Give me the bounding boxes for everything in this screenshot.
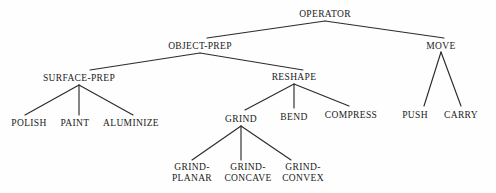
tree-node-compress[interactable]: COMPRESS bbox=[325, 110, 377, 120]
tree-edge-move-to-carry bbox=[441, 52, 461, 106]
tree-node-label: PAINT bbox=[61, 118, 90, 128]
tree-edge-reshape-to-grind bbox=[245, 84, 294, 110]
tree-node-polish[interactable]: POLISH bbox=[11, 118, 46, 128]
tree-node-label: ALUMINIZE bbox=[103, 118, 159, 128]
tree-node-label: OPERATOR bbox=[299, 9, 351, 19]
tree-node-label-second-line: CONCAVE bbox=[224, 172, 271, 183]
tree-node-object-prep[interactable]: OBJECT-PREP bbox=[168, 41, 232, 51]
tree-edge-operator-to-move bbox=[325, 21, 444, 38]
tree-edge-reshape-to-compress bbox=[294, 84, 349, 106]
tree-node-label: MOVE bbox=[426, 41, 455, 51]
tree-node-label: COMPRESS bbox=[325, 110, 377, 120]
tree-node-paint[interactable]: PAINT bbox=[61, 118, 90, 128]
tree-edge-grind-to-grind-planar bbox=[192, 126, 241, 160]
tree-edge-surface-prep-to-aluminize bbox=[79, 85, 133, 115]
tree-node-label: SURFACE-PREP bbox=[43, 73, 115, 83]
tree-node-label: GRIND- bbox=[224, 162, 271, 173]
tree-node-label-second-line: CONVEX bbox=[282, 172, 324, 183]
tree-node-grind[interactable]: GRIND bbox=[225, 114, 257, 124]
tree-edge-move-to-push bbox=[424, 52, 441, 106]
tree-node-operator[interactable]: OPERATOR bbox=[299, 9, 351, 19]
tree-node-move[interactable]: MOVE bbox=[426, 41, 455, 51]
tree-diagram: OPERATOROBJECT-PREPMOVESURFACE-PREPRESHA… bbox=[0, 0, 496, 193]
tree-node-aluminize[interactable]: ALUMINIZE bbox=[103, 118, 159, 128]
tree-node-grind-convex[interactable]: GRIND-CONVEX bbox=[282, 162, 324, 183]
tree-node-surface-prep[interactable]: SURFACE-PREP bbox=[43, 73, 115, 83]
tree-node-label: GRIND bbox=[225, 114, 257, 124]
tree-node-grind-concave[interactable]: GRIND-CONCAVE bbox=[224, 162, 271, 183]
tree-edge-object-prep-to-reshape bbox=[200, 53, 303, 70]
tree-node-label: OBJECT-PREP bbox=[168, 41, 232, 51]
tree-edge-operator-to-object-prep bbox=[207, 21, 325, 38]
tree-node-label: GRIND- bbox=[282, 162, 324, 173]
tree-node-label: CARRY bbox=[444, 110, 478, 120]
tree-node-bend[interactable]: BEND bbox=[280, 112, 307, 122]
tree-node-label: PUSH bbox=[402, 110, 428, 120]
tree-edge-grind-to-grind-convex bbox=[241, 126, 291, 160]
tree-node-reshape[interactable]: RESHAPE bbox=[272, 72, 317, 82]
tree-node-label: RESHAPE bbox=[272, 72, 317, 82]
tree-node-label: GRIND- bbox=[172, 162, 212, 173]
tree-edge-object-prep-to-surface-prep bbox=[90, 53, 200, 70]
tree-node-label: BEND bbox=[280, 112, 307, 122]
tree-node-label: POLISH bbox=[11, 118, 46, 128]
tree-node-grind-planar[interactable]: GRIND-PLANAR bbox=[172, 162, 212, 183]
tree-node-push[interactable]: PUSH bbox=[402, 110, 428, 120]
tree-edge-surface-prep-to-polish bbox=[25, 85, 79, 115]
tree-node-label-second-line: PLANAR bbox=[172, 172, 212, 183]
tree-node-carry[interactable]: CARRY bbox=[444, 110, 478, 120]
